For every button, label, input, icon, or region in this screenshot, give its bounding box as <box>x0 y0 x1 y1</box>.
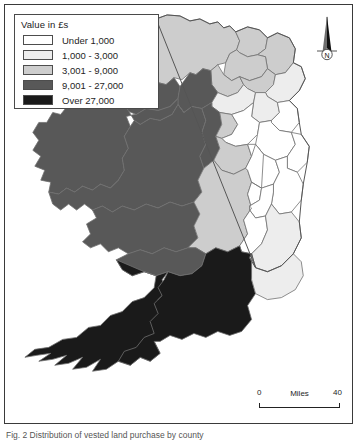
scale-bar-max: 40 <box>333 388 342 397</box>
north-arrow-icon: N <box>310 13 344 65</box>
scale-bar-line <box>259 403 340 408</box>
legend-swatch-9001-27000 <box>23 80 53 91</box>
figure-caption: Fig. 2 Distribution of vested land purch… <box>6 429 351 441</box>
legend-label-1000-3000: 1,000 - 3,000 <box>62 50 118 61</box>
legend-swatch-over-27000 <box>23 95 53 106</box>
legend-swatch-under-1000 <box>23 35 53 46</box>
scale-bar-units: Miles <box>257 389 342 398</box>
legend-item-9001-27000: 9,001 - 27,000 <box>20 78 153 92</box>
legend-item-1000-3000: 1,000 - 3,000 <box>20 48 153 62</box>
legend-item-under-1000: Under 1,000 <box>20 33 153 47</box>
legend-label-over-27000: Over 27,000 <box>62 95 114 106</box>
legend-swatch-1000-3000 <box>23 50 53 61</box>
legend-title: Value in £s <box>21 19 153 30</box>
legend-item-3001-9000: 3,001 - 9,000 <box>20 63 153 77</box>
north-arrow-label: N <box>324 52 329 59</box>
north-arrow: N <box>310 13 344 65</box>
county-clare <box>83 202 200 254</box>
legend-swatch-3001-9000 <box>23 65 53 76</box>
figure-container: Value in £s Under 1,000 1,000 - 3,000 3,… <box>0 0 357 441</box>
scale-bar: 0 Miles 40 <box>257 388 342 414</box>
legend-label-under-1000: Under 1,000 <box>62 35 114 46</box>
legend-label-3001-9000: 3,001 - 9,000 <box>62 65 118 76</box>
map-frame: Value in £s Under 1,000 1,000 - 3,000 3,… <box>4 4 353 424</box>
legend-label-9001-27000: 9,001 - 27,000 <box>62 80 123 91</box>
legend-item-over-27000: Over 27,000 <box>20 93 153 107</box>
map-legend: Value in £s Under 1,000 1,000 - 3,000 3,… <box>14 14 159 109</box>
